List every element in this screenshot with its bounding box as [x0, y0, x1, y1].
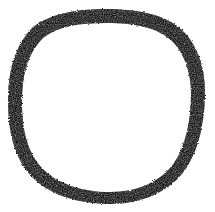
ink-circle-icon	[0, 0, 215, 212]
sketch-canvas	[0, 0, 215, 212]
ink-fleck-overlay	[0, 0, 215, 212]
